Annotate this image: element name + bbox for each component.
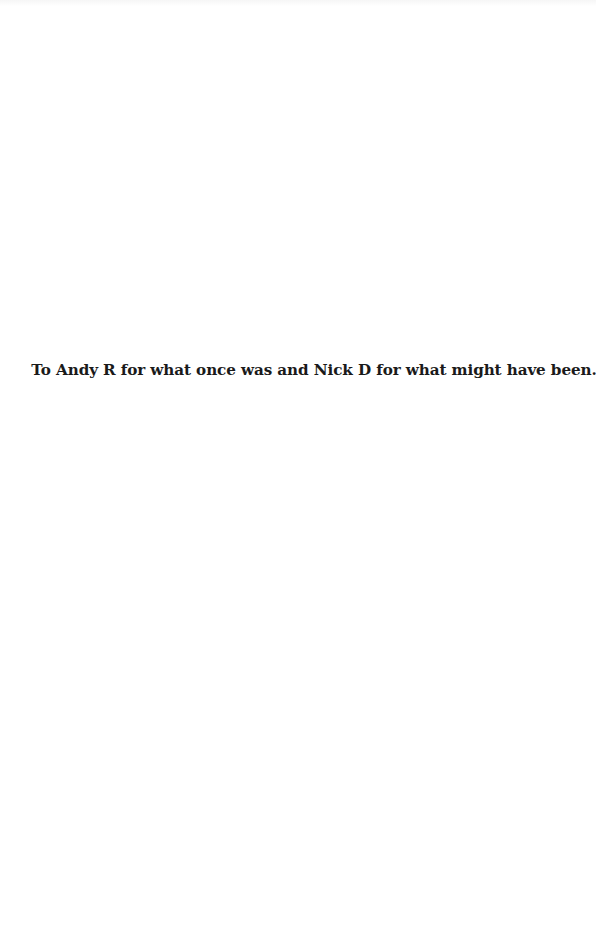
page-top-edge <box>0 0 596 6</box>
document-page: To Andy R for what once was and Nick D f… <box>0 0 596 952</box>
dedication-text: To Andy R for what once was and Nick D f… <box>0 359 596 381</box>
